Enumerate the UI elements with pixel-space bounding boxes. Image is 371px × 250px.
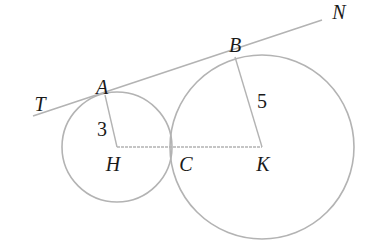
label-H: H [106, 154, 120, 174]
label-T: T [34, 94, 45, 114]
label-N: N [332, 2, 345, 22]
label-C: C [179, 154, 192, 174]
geometry-diagram: T A B N H C K 3 5 [0, 0, 371, 250]
label-K: K [256, 154, 269, 174]
label-A: A [96, 77, 108, 97]
diagram-canvas [0, 0, 371, 250]
tangent-line-TN [33, 20, 322, 116]
label-radius-small: 3 [97, 119, 107, 139]
label-radius-large: 5 [257, 91, 267, 111]
label-B: B [229, 35, 241, 55]
